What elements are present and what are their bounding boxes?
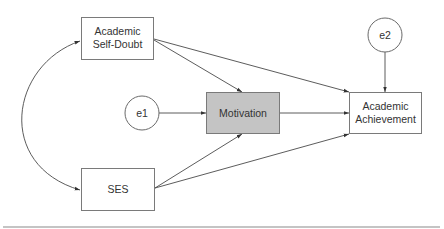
node-e2: e2 bbox=[368, 18, 402, 52]
e2-label: e2 bbox=[379, 29, 391, 41]
node-academic-achievement: Academic Achievement bbox=[350, 93, 422, 134]
edge-ses-motivation bbox=[155, 134, 242, 188]
node-academic-self-doubt: Academic Self-Doubt bbox=[82, 18, 154, 60]
edge-ses-achievement bbox=[155, 134, 349, 188]
achievement-label-line2: Achievement bbox=[355, 113, 416, 125]
edge-selfdoubt-ses-covariance bbox=[22, 41, 80, 190]
node-ses: SES bbox=[82, 169, 155, 211]
motivation-label: Motivation bbox=[219, 107, 267, 119]
e1-label: e1 bbox=[136, 107, 148, 119]
node-motivation: Motivation bbox=[207, 93, 280, 134]
edge-selfdoubt-achievement bbox=[154, 39, 349, 92]
path-diagram: Academic Self-Doubt SES e1 Motivation e2… bbox=[0, 0, 444, 229]
self-doubt-label-line1: Academic bbox=[94, 25, 140, 37]
edges bbox=[22, 39, 385, 190]
achievement-label-line1: Academic bbox=[362, 100, 408, 112]
self-doubt-label-line2: Self-Doubt bbox=[93, 38, 143, 50]
node-e1: e1 bbox=[125, 96, 159, 130]
ses-label: SES bbox=[107, 183, 128, 195]
edge-selfdoubt-motivation bbox=[154, 40, 242, 92]
